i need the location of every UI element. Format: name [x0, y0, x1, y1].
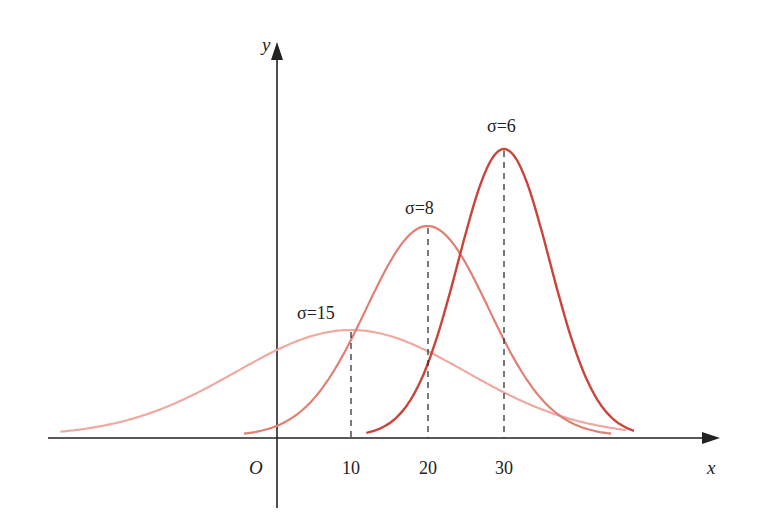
x-tick-30: 30: [495, 458, 513, 478]
x-tick-10: 10: [342, 458, 360, 478]
sigma-15-label: σ=15: [297, 303, 335, 323]
x-tick-20: 20: [419, 458, 437, 478]
x-axis-arrow-icon: [702, 432, 720, 444]
x-axis-label: x: [706, 457, 716, 478]
sigma-8-label: σ=8: [405, 198, 434, 218]
normal-distribution-chart: y x O 10 20 30 σ=15 σ=8 σ=6: [0, 0, 759, 530]
sigma-6-label: σ=6: [487, 116, 516, 136]
curve-sigma-15: [60, 330, 626, 432]
y-axis-label: y: [260, 34, 271, 55]
origin-label: O: [249, 457, 263, 478]
y-axis-arrow-icon: [271, 42, 283, 60]
